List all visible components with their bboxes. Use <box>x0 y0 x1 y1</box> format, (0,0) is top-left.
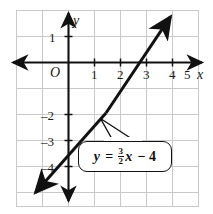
x-tick-label-5: 5 <box>184 68 191 81</box>
x-tick-label-3: 3 <box>143 68 150 81</box>
y-axis-label: y <box>73 14 79 28</box>
fraction-numerator: 3 <box>118 147 125 156</box>
x-tick-label-2: 2 <box>117 68 124 81</box>
equation-variable: x <box>125 149 134 165</box>
graph-canvas <box>0 0 213 214</box>
y-tick-label-4: 4 <box>48 160 55 175</box>
y-tick-label-2: 2 <box>48 108 55 123</box>
equation-callout-box: y = 3 2 x − 4 <box>78 141 172 172</box>
origin-label: O <box>50 66 60 80</box>
y-tick-label-1: 1 <box>49 31 56 44</box>
equation-equals: = <box>102 149 116 165</box>
x-tick-label-1: 1 <box>91 68 98 81</box>
fraction-three-halves: 3 2 <box>118 147 125 166</box>
x-tick-label-4: 4 <box>169 68 176 81</box>
equation-constant: 4 <box>149 149 156 165</box>
equation-text: y = 3 2 x − 4 <box>94 147 157 166</box>
equation-lhs: y <box>94 149 103 165</box>
x-axis <box>13 59 202 67</box>
coordinate-graph-figure: 1 O 1 2 3 4 5 x y –2 –3 –4 y = 3 2 x − 4 <box>0 0 213 214</box>
equation-operator: − <box>135 149 149 165</box>
x-axis-label: x <box>197 68 203 82</box>
fraction-denominator: 2 <box>118 156 125 166</box>
y-axis <box>65 13 73 201</box>
y-tick-minus-4: –4 <box>41 161 54 174</box>
y-tick-label-3: 3 <box>48 134 55 149</box>
y-tick-minus-2: –2 <box>41 109 54 122</box>
y-tick-minus-3: –3 <box>41 135 54 148</box>
